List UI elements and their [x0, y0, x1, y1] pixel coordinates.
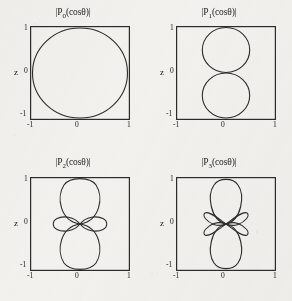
curve-p3-lower-lobe: [210, 224, 241, 269]
y-tick-bottom-p2: -1: [20, 261, 26, 269]
y-tick-bottom-p3: -1: [166, 261, 172, 269]
x-tick-right-p2: 1: [127, 272, 131, 280]
panel-p3: |P3(cosθ)| z 1 0 -1 -1 0 1: [146, 150, 292, 301]
y-axis-label-p1: z: [160, 67, 164, 77]
panel-p2: |P2(cosθ)| z 1 0 -1 -1 0 1: [0, 150, 146, 301]
panel-title-suffix-p0: (cosθ)|: [66, 7, 91, 17]
x-tick-right-p1: 1: [273, 121, 277, 129]
y-tick-top-p3: 1: [170, 175, 174, 183]
panel-title-p3: |P3(cosθ)|: [146, 157, 292, 172]
panel-p1: |P1(cosθ)| z 1 0 -1 -1 0 1: [146, 0, 292, 150]
y-tick-mid-p2: 0: [24, 218, 28, 226]
x-tick-right-p3: 1: [273, 272, 277, 280]
curve-p3-upper-lobe: [210, 179, 241, 224]
x-tick-left-p2: -1: [27, 272, 33, 280]
x-tick-left-p0: -1: [27, 121, 33, 129]
x-tick-mid-p0: 0: [75, 121, 79, 129]
y-tick-top-p1: 1: [170, 24, 174, 32]
curve-p2-right-lobe: [80, 217, 107, 231]
plot-area-p0: [30, 26, 130, 120]
x-tick-mid-p1: 0: [221, 121, 225, 129]
y-tick-mid-p1: 0: [170, 67, 174, 75]
panel-title-suffix-p1: (cosθ)|: [212, 7, 237, 17]
x-tick-left-p3: -1: [173, 272, 179, 280]
x-tick-left-p1: -1: [173, 121, 179, 129]
y-axis-label-p2: z: [14, 218, 18, 228]
plot-frame-p0: [31, 27, 130, 120]
plot-area-p3: [176, 177, 276, 271]
y-axis-label-p3: z: [160, 218, 164, 228]
y-axis-label-p0: z: [14, 67, 18, 77]
panel-title-suffix-p2: (cosθ)|: [66, 157, 91, 167]
y-tick-top-p0: 1: [24, 24, 28, 32]
x-tick-right-p0: 1: [127, 121, 131, 129]
y-tick-mid-p3: 0: [170, 218, 174, 226]
y-tick-bottom-p1: -1: [166, 110, 172, 118]
panel-p0: |P0(cosθ)| z 1 0 -1 -1 0 1: [0, 0, 146, 150]
curve-p0: [33, 28, 128, 118]
plot-area-p2: [30, 177, 130, 271]
legendre-polar-figure: |P0(cosθ)| z 1 0 -1 -1 0 1 |P1(cosθ)| z …: [0, 0, 292, 301]
curve-p1-upper-lobe: [202, 28, 249, 73]
x-tick-mid-p2: 0: [75, 272, 79, 280]
plot-area-p1: [176, 26, 276, 120]
panel-title-p0: |P0(cosθ)|: [0, 7, 146, 22]
panel-title-p2: |P2(cosθ)|: [0, 157, 146, 172]
y-tick-top-p2: 1: [24, 175, 28, 183]
curve-p2-left-lobe: [53, 217, 80, 231]
curve-p1-lower-lobe: [202, 73, 249, 118]
panel-title-p1: |P1(cosθ)|: [146, 7, 292, 22]
panel-title-suffix-p3: (cosθ)|: [212, 157, 237, 167]
x-tick-mid-p3: 0: [221, 272, 225, 280]
y-tick-mid-p0: 0: [24, 67, 28, 75]
y-tick-bottom-p0: -1: [20, 110, 26, 118]
